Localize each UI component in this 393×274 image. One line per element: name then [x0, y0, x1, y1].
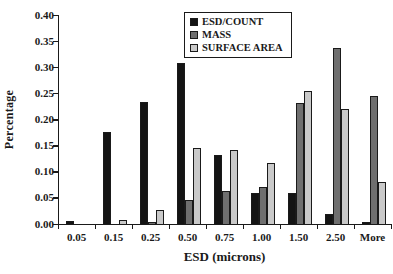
y-tick-label: 0.15 [20, 140, 54, 151]
bar-group-0.15 [96, 15, 133, 224]
legend-swatch-icon [190, 31, 198, 39]
legend-swatch-icon [190, 44, 198, 52]
bar-group-0.25 [133, 15, 170, 224]
legend: ESD/COUNTMASSSURFACE AREA [184, 12, 292, 58]
x-tick-mark [391, 225, 393, 229]
y-tick-label: 0.20 [20, 114, 54, 125]
bar-esd-count-0.05 [66, 221, 74, 224]
x-tick-mark [206, 225, 208, 229]
x-tick-mark [58, 225, 60, 229]
y-axis-title: Percentage [2, 75, 17, 165]
bar-esd-count-0.75 [214, 155, 222, 224]
bar-esd-count-1.50 [288, 193, 296, 224]
legend-swatch-icon [190, 18, 198, 26]
legend-label: SURFACE AREA [202, 42, 283, 54]
bar-mass-1.00 [259, 187, 267, 224]
legend-item-esd-count: ESD/COUNT [190, 16, 283, 28]
x-axis-title: ESD (microns) [58, 249, 391, 265]
bar-group-2.50 [318, 15, 355, 224]
x-tick-mark [280, 225, 282, 229]
legend-item-surface-area: SURFACE AREA [190, 42, 283, 54]
x-category-label-1.00: 1.00 [243, 231, 280, 243]
x-category-label-0.15: 0.15 [95, 231, 132, 243]
legend-label: MASS [202, 29, 231, 41]
bar-surface-area-2.50 [341, 109, 349, 224]
bar-group-More [355, 15, 392, 224]
y-tick-label: 0.10 [20, 166, 54, 177]
bar-mass-0.75 [222, 191, 230, 224]
x-category-label-0.25: 0.25 [132, 231, 169, 243]
bar-surface-area-0.25 [156, 210, 164, 224]
bar-surface-area-0.15 [119, 220, 127, 224]
bar-mass-2.50 [333, 48, 341, 224]
bar-esd-count-0.15 [103, 132, 111, 224]
bar-esd-count-2.50 [325, 214, 333, 224]
y-tick-label: 0.00 [20, 219, 54, 230]
bar-esd-count-0.25 [140, 102, 148, 224]
x-category-label-0.05: 0.05 [58, 231, 95, 243]
x-tick-mark [317, 225, 319, 229]
x-category-label-0.50: 0.50 [169, 231, 206, 243]
y-tick-label: 0.30 [20, 62, 54, 73]
x-tick-mark [169, 225, 171, 229]
bar-surface-area-0.75 [230, 150, 238, 224]
bar-esd-count-0.50 [177, 63, 185, 224]
x-tick-mark [243, 225, 245, 229]
legend-label: ESD/COUNT [202, 16, 263, 28]
bar-surface-area-1.50 [304, 91, 312, 224]
bar-surface-area-More [378, 182, 386, 224]
y-tick-label: 0.35 [20, 36, 54, 47]
bar-mass-0.50 [185, 200, 193, 224]
bar-surface-area-0.50 [193, 148, 201, 224]
legend-item-mass: MASS [190, 29, 283, 41]
bar-chart: Percentage 0.400.350.300.250.200.150.100… [0, 0, 393, 274]
x-tick-mark [95, 225, 97, 229]
bar-surface-area-1.00 [267, 163, 275, 224]
bar-mass-0.25 [148, 222, 156, 224]
bar-esd-count-1.00 [251, 193, 259, 224]
bar-group-0.05 [59, 15, 96, 224]
x-category-label-2.50: 2.50 [317, 231, 354, 243]
bar-mass-1.50 [296, 103, 304, 224]
x-category-label-1.50: 1.50 [280, 231, 317, 243]
y-tick-label: 0.05 [20, 192, 54, 203]
y-tick-label: 0.40 [20, 10, 54, 21]
bar-mass-More [370, 96, 378, 224]
y-tick-label: 0.25 [20, 88, 54, 99]
x-category-label-More: More [354, 231, 391, 243]
bar-esd-count-More [362, 222, 370, 224]
x-tick-mark [132, 225, 134, 229]
x-tick-mark [354, 225, 356, 229]
x-category-label-0.75: 0.75 [206, 231, 243, 243]
